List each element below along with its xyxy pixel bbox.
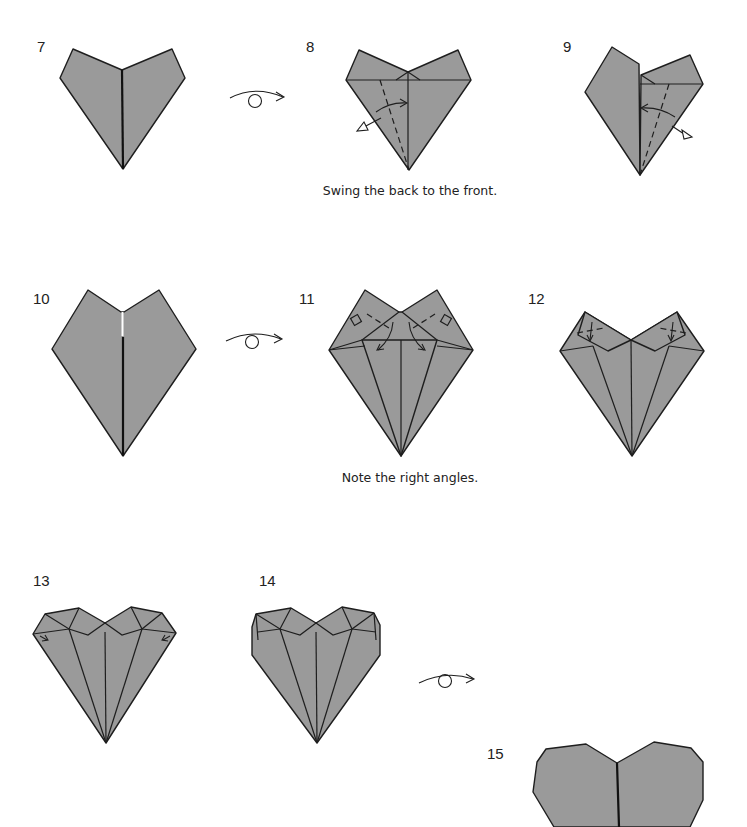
turn-over-icon (419, 674, 474, 688)
turn-over-icon (226, 334, 282, 349)
step-7-figure (60, 49, 185, 169)
origami-diagram (0, 0, 747, 827)
step-9-figure (585, 47, 703, 175)
step-13-figure (33, 607, 176, 743)
step-14-figure (252, 607, 380, 743)
step-11-figure (329, 290, 473, 456)
step-12-figure (560, 312, 704, 456)
step-10-figure (52, 290, 196, 456)
turn-over-icon (230, 91, 284, 107)
step-15-figure (533, 742, 703, 827)
step-8-figure (346, 50, 471, 170)
